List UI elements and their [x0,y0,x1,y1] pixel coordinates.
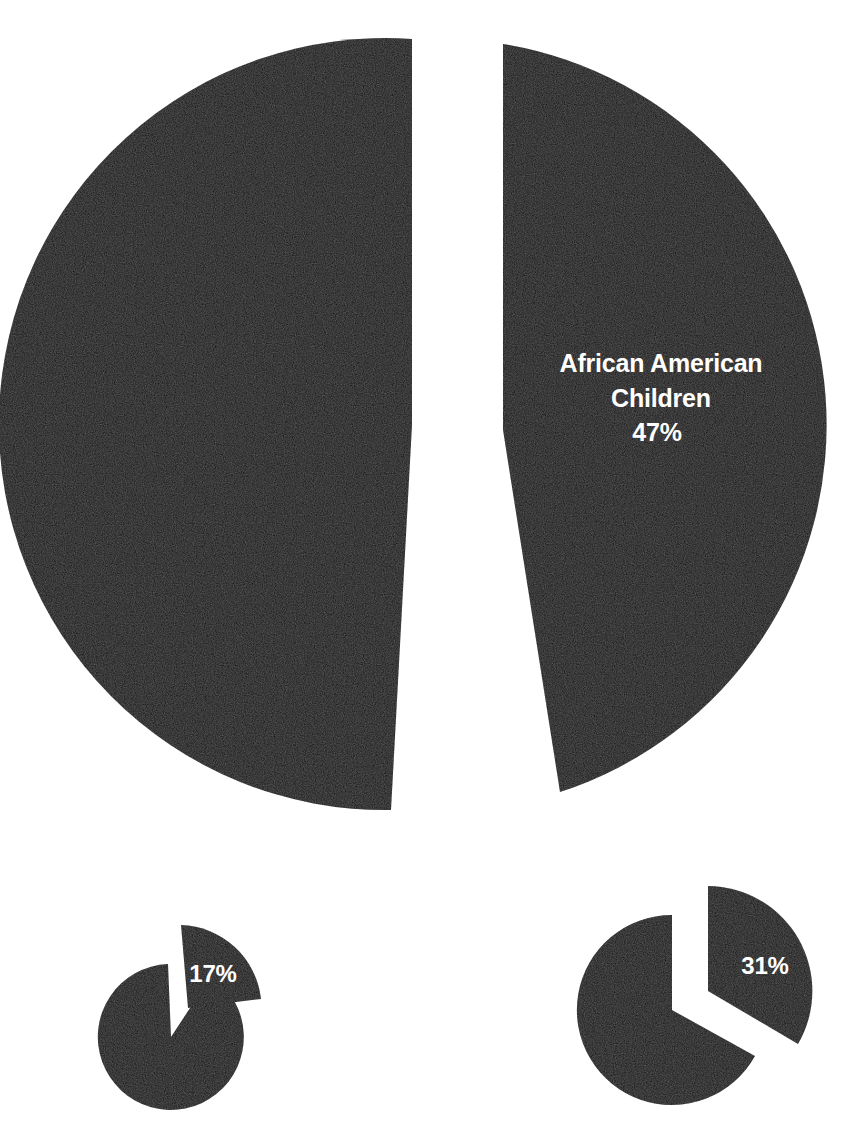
small-pie-right [577,886,812,1105]
small-pie-right-label-percent: 31% [741,952,788,979]
small-pie-left [98,925,261,1110]
main-pie-label-line1: African American [560,349,763,377]
pie-chart-figure: African American Children 47% 17% 31% [0,0,849,1146]
main-pie [0,38,827,810]
main-pie-label-line2: Children [611,384,711,412]
figure-canvas: African American Children 47% 17% 31% [0,0,849,1146]
small-pie-left-label-percent: 17% [189,960,236,987]
main-pie-slice-other [0,38,412,810]
main-pie-label-percent: 47% [632,418,681,446]
